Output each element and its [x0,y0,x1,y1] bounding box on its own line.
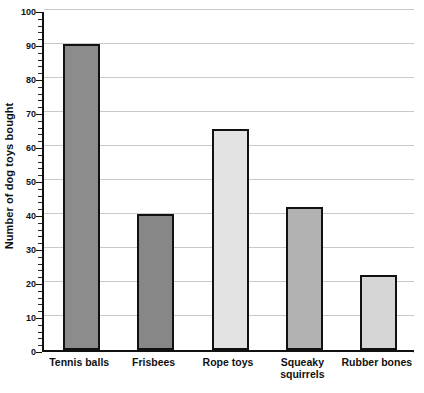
y-axis-tick-label: 40 [14,212,36,221]
bar [137,214,174,350]
y-axis-tick-label: 0 [14,348,36,357]
gridline [44,9,414,10]
bar [286,207,323,350]
x-axis-tick-labels: Tennis ballsFrisbeesRope toysSqueaky squ… [42,356,414,392]
y-axis-tick-label: 100 [14,8,36,17]
plot-area [42,12,414,352]
y-axis-tick-label: 80 [14,76,36,85]
y-axis-tick-label: 90 [14,42,36,51]
bar [212,129,249,350]
x-axis-tick-label: Rubber bones [332,356,422,368]
bar [63,44,100,350]
y-axis-tick-label: 10 [14,314,36,323]
y-axis-major-tick [36,352,42,353]
y-axis-tick-label: 20 [14,280,36,289]
y-axis-tick-labels: 0102030405060708090100 [14,12,36,352]
y-axis-tick-label: 60 [14,144,36,153]
bars-layer [44,12,414,350]
y-axis-tick-label: 30 [14,246,36,255]
bar-chart: Number of dog toys bought 01020304050607… [0,0,424,393]
y-axis-tick-label: 70 [14,110,36,119]
y-axis-tick-label: 50 [14,178,36,187]
bar [360,275,397,350]
